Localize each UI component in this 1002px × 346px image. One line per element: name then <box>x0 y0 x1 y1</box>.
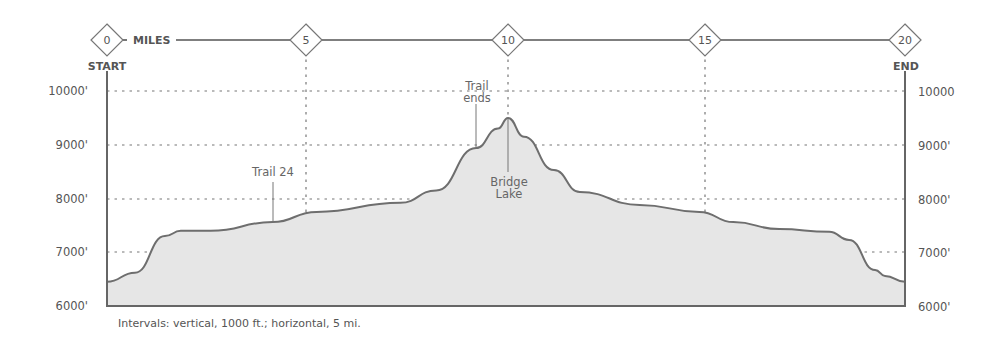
mile-marker-15: 15 <box>689 24 721 56</box>
svg-text:9000': 9000' <box>56 138 88 152</box>
mile-marker-10: 10 <box>492 24 524 56</box>
svg-text:7000': 7000' <box>56 245 88 259</box>
svg-text:6000': 6000' <box>56 299 88 313</box>
svg-text:Trail 24: Trail 24 <box>251 165 294 179</box>
svg-text:15: 15 <box>698 34 712 47</box>
elevation-area <box>107 118 905 306</box>
mile-marker-5: 5 <box>290 24 322 56</box>
annotation-trail-24: Trail 24 <box>251 165 294 222</box>
svg-text:5: 5 <box>303 34 310 47</box>
svg-text:8000': 8000' <box>918 193 950 207</box>
mile-marker-20: 20 <box>889 24 921 56</box>
svg-text:10: 10 <box>501 34 515 47</box>
svg-text:7000': 7000' <box>918 246 950 260</box>
elevation-profile-chart: 0 5 10 15 20 MILES START END 10000' 9000… <box>0 0 1002 346</box>
miles-label: MILES <box>133 34 171 47</box>
intervals-footnote: Intervals: vertical, 1000 ft.; horizonta… <box>118 317 361 330</box>
y-axis-left-labels: 10000' 9000' 8000' 7000' 6000' <box>48 84 88 313</box>
svg-text:10000': 10000' <box>48 84 88 98</box>
svg-text:8000': 8000' <box>56 192 88 206</box>
svg-text:9000': 9000' <box>918 139 950 153</box>
svg-text:6000': 6000' <box>918 300 950 314</box>
annotation-trail-ends: Trail ends <box>463 79 491 147</box>
end-label: END <box>893 60 919 73</box>
svg-text:Lake: Lake <box>496 187 523 201</box>
svg-text:10000: 10000 <box>918 85 955 99</box>
svg-text:0: 0 <box>104 34 111 47</box>
start-label: START <box>88 60 127 73</box>
y-axis-right-labels: 10000 9000' 8000' 7000' 6000' <box>918 85 955 314</box>
svg-text:20: 20 <box>898 34 912 47</box>
mile-marker-0: 0 <box>91 24 123 56</box>
miles-scale: 0 5 10 15 20 MILES START END <box>88 24 921 73</box>
svg-text:ends: ends <box>463 91 491 105</box>
